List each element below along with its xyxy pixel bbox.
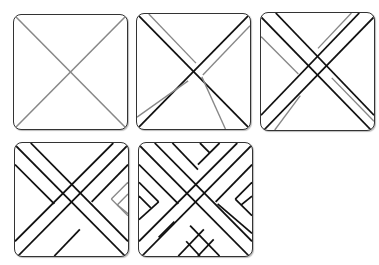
step-5-tile bbox=[138, 142, 253, 257]
step-4-tile bbox=[14, 142, 129, 257]
step-2-tile bbox=[136, 13, 251, 130]
step-1-tile bbox=[13, 14, 128, 130]
step-2-drawing bbox=[137, 14, 250, 129]
step-3-tile bbox=[260, 12, 375, 131]
step-5-drawing bbox=[139, 143, 252, 256]
step-1-drawing bbox=[14, 15, 127, 129]
step-3-drawing bbox=[261, 13, 374, 130]
step-4-drawing bbox=[15, 143, 128, 256]
